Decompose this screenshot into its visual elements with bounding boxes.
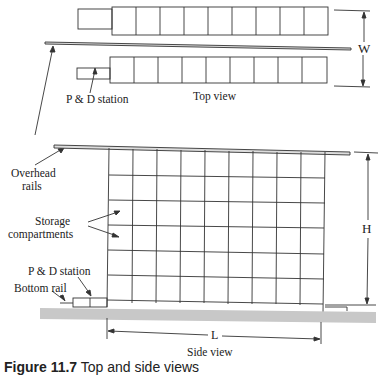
pointer-storage-1: [88, 212, 118, 222]
pd-station-top-label: P & D station: [66, 93, 129, 106]
side-view-overhead-rail: [54, 145, 350, 155]
side-view-rack: [107, 148, 325, 313]
side-view-label: Side view: [187, 346, 233, 359]
pd-station-side-label: P & D station: [28, 265, 91, 278]
overhead-rails-label-2: rails: [22, 180, 42, 193]
top-view-rail: [45, 42, 351, 50]
dim-l-label: L: [211, 329, 218, 342]
caption-text: Top and side views: [77, 359, 199, 375]
bottom-rail-label: Bottom rail: [14, 282, 67, 295]
side-view-pd-station: [73, 277, 107, 307]
dim-h-label: H: [362, 222, 371, 235]
dim-w-label: W: [358, 42, 370, 55]
storage-label-1: Storage: [35, 215, 70, 228]
figure-caption: Figure 11.7 Top and side views: [4, 359, 199, 375]
top-view-upper-rack: [78, 7, 328, 35]
top-view-label: Top view: [193, 90, 236, 103]
top-view-lower-rack: [77, 57, 327, 83]
overhead-rails-label-1: Overhead: [11, 167, 56, 180]
caption-prefix: Figure 11.7: [4, 359, 77, 375]
pointer-overhead-side: [35, 149, 62, 165]
pointer-overhead-top: [35, 47, 53, 135]
storage-label-2: compartments: [8, 228, 73, 241]
floor: [40, 308, 376, 323]
